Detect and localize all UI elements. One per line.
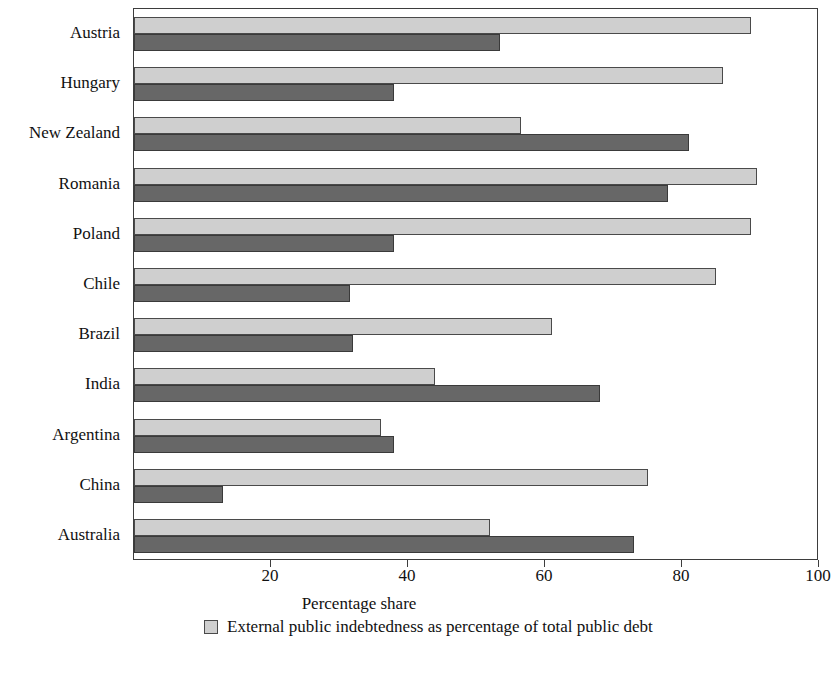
bar-hungary-series-1	[134, 67, 723, 84]
bar-hungary-series-2	[134, 84, 394, 101]
x-axis-tick-labels: 20406080100	[0, 566, 834, 590]
bar-brazil-series-2	[134, 335, 353, 352]
bar-romania-series-1	[134, 168, 757, 185]
y-axis-category-labels: AustriaHungaryNew ZealandRomaniaPolandCh…	[0, 8, 128, 560]
bar-austria-series-2	[134, 34, 500, 51]
bar-australia-series-1	[134, 519, 490, 536]
y-axis-label-australia: Australia	[58, 526, 120, 543]
y-axis-label-argentina: Argentina	[52, 426, 120, 443]
y-axis-label-austria: Austria	[70, 24, 120, 41]
bar-chart: AustriaHungaryNew ZealandRomaniaPolandCh…	[0, 0, 834, 677]
x-tick-label-80: 80	[651, 566, 711, 586]
bar-chile-series-2	[134, 285, 350, 302]
y-axis-label-india: India	[85, 375, 120, 392]
legend-label-external-public-indebtedness: External public indebtedness as percenta…	[227, 618, 653, 636]
bar-australia-series-2	[134, 536, 634, 553]
x-axis-title: Percentage share	[0, 594, 834, 614]
bar-new-zealand-series-2	[134, 134, 689, 151]
chart-legend: External public indebtedness as percenta…	[204, 618, 653, 636]
legend-swatch-light	[204, 620, 218, 634]
x-tick-label-40: 40	[377, 566, 437, 586]
bar-romania-series-2	[134, 185, 668, 202]
y-axis-label-brazil: Brazil	[78, 325, 120, 342]
y-axis-label-china: China	[79, 476, 120, 493]
bar-poland-series-2	[134, 235, 394, 252]
y-axis-label-chile: Chile	[83, 275, 120, 292]
bar-india-series-1	[134, 368, 435, 385]
y-axis-label-poland: Poland	[73, 225, 120, 242]
bar-poland-series-1	[134, 218, 751, 235]
bar-argentina-series-1	[134, 419, 381, 436]
bar-brazil-series-1	[134, 318, 552, 335]
x-tick-label-20: 20	[240, 566, 300, 586]
bar-china-series-2	[134, 486, 223, 503]
bar-austria-series-1	[134, 17, 751, 34]
x-tick-label-60: 60	[514, 566, 574, 586]
x-axis-title-text: Percentage share	[302, 594, 417, 613]
bar-china-series-1	[134, 469, 648, 486]
bar-new-zealand-series-1	[134, 117, 521, 134]
bars-layer	[134, 9, 817, 559]
y-axis-label-hungary: Hungary	[61, 74, 120, 91]
x-tick-label-100: 100	[788, 566, 834, 586]
y-axis-label-romania: Romania	[59, 175, 120, 192]
bar-argentina-series-2	[134, 436, 394, 453]
bar-chile-series-1	[134, 268, 716, 285]
y-axis-label-new-zealand: New Zealand	[29, 124, 120, 141]
bar-india-series-2	[134, 385, 600, 402]
plot-area	[133, 8, 818, 560]
